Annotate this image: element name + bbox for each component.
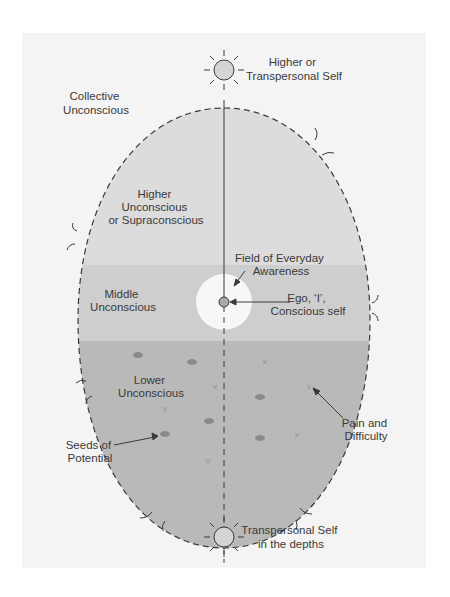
svg-text:×: × (162, 404, 168, 415)
sun-icon-top (204, 50, 244, 90)
svg-text:×: × (306, 382, 312, 393)
lower-unconscious-zone (70, 341, 380, 551)
egg-diagram: × × × × × × Higher or Transpersonal Self… (0, 0, 450, 597)
svg-text:×: × (205, 456, 211, 467)
ego-circle-icon (219, 297, 229, 307)
label-seeds-of-potential: Seeds of Potential (66, 439, 115, 464)
label-pain-difficulty: Pain and Difficulty (342, 417, 391, 442)
higher-unconscious-zone (70, 100, 380, 265)
svg-text:×: × (262, 357, 268, 368)
sun-icon-bottom (204, 517, 244, 557)
svg-text:×: × (294, 430, 300, 441)
svg-text:×: × (212, 382, 218, 393)
label-higher-self: Higher or Transpersonal Self (246, 56, 343, 82)
label-collective-unconscious: Collective Unconscious (63, 90, 129, 116)
